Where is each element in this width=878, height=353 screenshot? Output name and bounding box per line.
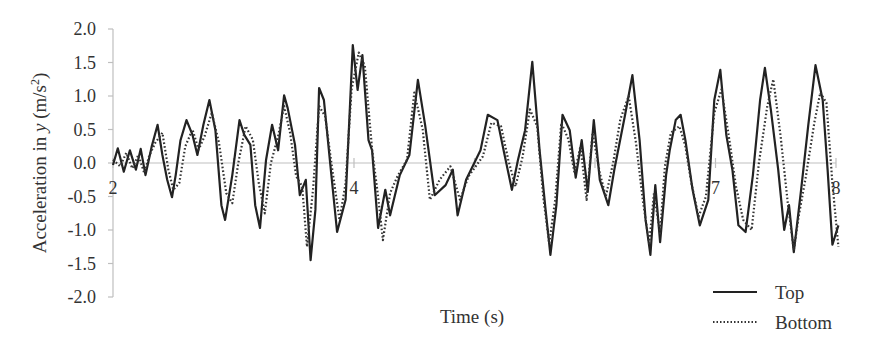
legend-item-bottom: Bottom xyxy=(713,312,832,333)
x-tick-label: 7 xyxy=(711,178,720,198)
legend-item-top: Top xyxy=(713,282,804,303)
y-tick-label: 1.0 xyxy=(74,86,97,106)
y-tick-label: 1.5 xyxy=(74,53,97,73)
y-tick-label: 0.5 xyxy=(74,120,97,140)
y-tick-label: -1.0 xyxy=(68,220,97,240)
series-top-line xyxy=(113,45,838,260)
x-tick-label: 4 xyxy=(350,178,359,198)
x-axis-title: Time (s) xyxy=(440,306,504,328)
plot-area xyxy=(113,45,838,260)
y-tick-label: -1.5 xyxy=(68,254,97,274)
y-tick-label: 0.0 xyxy=(74,153,97,173)
legend-label-bottom: Bottom xyxy=(775,312,832,333)
y-axis: 2.01.51.00.50.0-0.5-1.0-1.5-2.0 xyxy=(68,19,114,307)
x-tick-label: 2 xyxy=(109,178,118,198)
y-axis-title: Acceleration in y (m/s2) xyxy=(28,73,51,254)
y-tick-label: 2.0 xyxy=(74,19,97,39)
y-tick-label: -2.0 xyxy=(68,287,97,307)
legend-label-top: Top xyxy=(775,282,804,303)
acceleration-chart: 2.01.51.00.50.0-0.5-1.0-1.5-2.0 2478 Acc… xyxy=(0,0,878,353)
y-tick-label: -0.5 xyxy=(68,187,97,207)
legend: Top Bottom xyxy=(713,282,832,333)
